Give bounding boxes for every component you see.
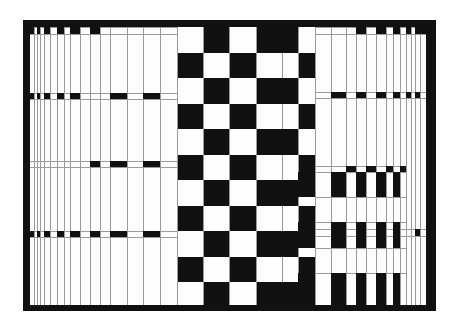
checker-black-cell	[229, 104, 256, 129]
band-black-segment	[143, 161, 160, 167]
checker-black-cell	[177, 104, 203, 129]
stripe-line	[37, 27, 38, 305]
band-black-segment	[393, 92, 400, 98]
checker-white-cell	[177, 180, 203, 206]
checker-black-cell	[203, 282, 229, 305]
band-line	[30, 99, 177, 100]
band-black-segment	[37, 93, 40, 99]
band-black-segment	[143, 231, 160, 237]
checker-white-cell	[177, 27, 203, 53]
checker-white-cell	[203, 257, 229, 282]
grid-line	[315, 248, 406, 249]
checker-line	[229, 27, 230, 305]
stripe-line	[420, 27, 421, 305]
grid-black-cell	[331, 273, 346, 305]
band-black-segment	[30, 27, 34, 34]
band-black-segment	[406, 27, 411, 34]
checker-white-cell	[298, 78, 315, 104]
checker-black-cell	[256, 27, 298, 53]
checker-black-cell	[298, 104, 315, 129]
checker-white-cell	[229, 78, 256, 104]
checker-black-cell	[177, 155, 203, 180]
band-black-segment	[356, 92, 366, 98]
checker-white-cell	[177, 231, 203, 257]
checker-white-cell	[203, 206, 229, 231]
band-line	[30, 27, 177, 28]
checker-white-cell	[256, 206, 298, 231]
cell-divider	[282, 104, 283, 129]
band-black-segment	[44, 93, 50, 99]
band-black-segment	[57, 27, 64, 34]
checker-white-cell	[256, 104, 298, 129]
checker-black-cell	[229, 155, 256, 180]
band-black-segment	[44, 27, 50, 34]
grid-black-cell	[393, 273, 400, 305]
band-black-segment	[90, 161, 100, 167]
checker-black-cell	[203, 27, 229, 53]
stripe-line	[64, 27, 65, 305]
band-black-segment	[415, 229, 420, 236]
checker-white-cell	[203, 104, 229, 129]
grid-black-cell	[298, 222, 315, 248]
checker-line	[298, 27, 299, 305]
checker-black-cell	[203, 180, 229, 206]
checker-black-cell	[229, 257, 256, 282]
checker-line	[177, 27, 178, 305]
checker-white-cell	[177, 129, 203, 155]
grid-black-cell	[356, 172, 366, 197]
cell-divider	[282, 155, 283, 180]
checker-white-cell	[203, 155, 229, 180]
checker-white-cell	[177, 78, 203, 104]
stripe-line	[70, 27, 71, 305]
stripe-line	[57, 27, 58, 305]
band-black-segment	[44, 231, 50, 237]
stripe-line	[80, 27, 81, 305]
stripe-line	[411, 27, 412, 305]
grid-black-cell	[298, 172, 315, 197]
checker-white-cell	[298, 27, 315, 53]
checker-line	[256, 27, 257, 305]
band-black-segment	[70, 27, 80, 34]
band-line	[30, 34, 177, 35]
stripe-line	[406, 27, 407, 305]
band-black-segment	[110, 231, 127, 237]
checker-black-cell	[256, 129, 298, 155]
band-black-segment	[57, 231, 64, 237]
band-black-segment	[37, 27, 40, 34]
band-black-segment	[70, 93, 80, 99]
band-black-segment	[110, 93, 127, 99]
checker-white-cell	[229, 180, 256, 206]
checker-black-cell	[203, 129, 229, 155]
checker-black-cell	[256, 231, 298, 257]
checker-black-cell	[177, 257, 203, 282]
band-black-segment	[393, 27, 400, 34]
stripe-line	[40, 27, 41, 305]
cell-divider	[282, 53, 283, 78]
checker-white-cell	[177, 282, 203, 305]
band-black-segment	[70, 231, 80, 237]
grid-black-cell	[393, 172, 400, 197]
checker-white-cell	[203, 53, 229, 78]
band-black-segment	[376, 92, 386, 98]
band-black-segment	[356, 27, 366, 34]
stripe-line	[44, 27, 45, 305]
band-black-segment	[331, 92, 346, 98]
grid-black-cell	[331, 172, 346, 197]
band-line	[30, 167, 177, 168]
cell-divider	[282, 257, 283, 282]
band-black-segment	[37, 231, 40, 237]
grid-black-cell	[393, 222, 400, 248]
grid-black-cell	[376, 172, 386, 197]
band-black-segment	[143, 93, 160, 99]
band-black-segment	[30, 93, 34, 99]
band-black-segment	[415, 92, 420, 98]
band-black-segment	[90, 231, 100, 237]
band-black-segment	[110, 161, 127, 167]
checker-black-cell	[256, 180, 298, 206]
band-black-segment	[420, 27, 426, 34]
grid-black-cell	[356, 273, 366, 305]
checker-white-cell	[256, 155, 298, 180]
checker-white-cell	[256, 257, 298, 282]
stripe-line	[34, 27, 35, 305]
band-black-segment	[90, 27, 100, 34]
